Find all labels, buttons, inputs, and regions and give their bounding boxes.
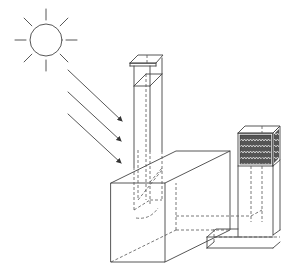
solar-ray-arrow [68, 92, 121, 141]
sun-icon [15, 9, 77, 71]
solar-ray-arrow [68, 70, 122, 121]
sun-ray [60, 54, 68, 62]
sun-ray [24, 18, 32, 26]
solar-chimney [130, 55, 163, 218]
sun-ray [60, 18, 68, 26]
sun-ray [24, 54, 32, 62]
room-box [111, 151, 230, 262]
solar-radiation-arrows [68, 70, 122, 163]
evaporative-pad-tower [238, 126, 280, 166]
solar-ray-arrow [68, 114, 121, 163]
solar-chimney-diagram [0, 0, 290, 278]
